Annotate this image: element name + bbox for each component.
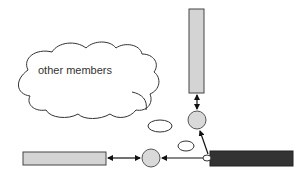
cloud-shape <box>18 42 158 119</box>
diagram-canvas <box>0 0 305 178</box>
left-circle-node[interactable] <box>142 149 160 167</box>
cloud-label: other members <box>38 64 112 76</box>
edge-dark-bar-top-circle <box>200 131 208 154</box>
small-ellipse-2 <box>178 141 194 151</box>
vertical-bar[interactable] <box>189 9 204 93</box>
left-bar[interactable] <box>23 152 106 165</box>
junction-oval <box>203 155 211 161</box>
dark-bar[interactable] <box>210 151 293 166</box>
top-circle-node[interactable] <box>188 111 206 129</box>
small-ellipse-1 <box>148 120 172 132</box>
